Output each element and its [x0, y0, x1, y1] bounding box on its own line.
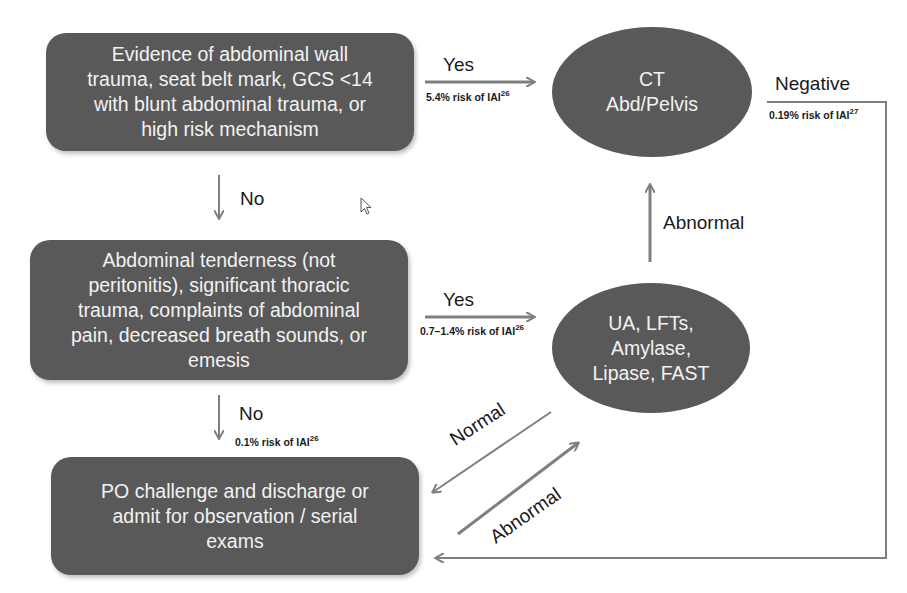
node-text-line: UA, LFTs,: [592, 311, 709, 336]
node-text-line: trauma, complaints of abdominal: [71, 298, 367, 323]
node-text-line: pain, decreased breath sounds, or: [71, 323, 367, 348]
edge-risk-yes-1: 5.4% risk of IAI26: [426, 89, 510, 103]
edge-risk-negative: 0.19% risk of IAI27: [769, 107, 858, 121]
node-text-line: Abd/Pelvis: [606, 92, 698, 117]
node-ct-abd-pelvis: CT Abd/Pelvis: [552, 27, 752, 157]
node-text-line: Amylase,: [592, 336, 709, 361]
node-text-line: with blunt abdominal trauma, or: [87, 92, 373, 117]
edge-label-no-1: No: [240, 188, 264, 210]
node-text-line: Abdominal tenderness (not: [71, 248, 367, 273]
node-abdominal-tenderness: Abdominal tenderness (not peritonitis), …: [30, 240, 408, 380]
edge-label-abnormal-up: Abnormal: [663, 212, 744, 234]
node-text-line: peritonitis), significant thoracic: [71, 273, 367, 298]
edge-label-no-2: No: [239, 403, 263, 425]
edge-label-negative: Negative: [775, 73, 850, 95]
node-text-line: CT: [606, 67, 698, 92]
edge-risk-yes-2: 0.7–1.4% risk of IAI26: [420, 323, 524, 337]
node-po-challenge: PO challenge and discharge or admit for …: [51, 457, 419, 575]
node-text-line: admit for observation / serial: [101, 504, 369, 529]
node-text-line: emesis: [71, 348, 367, 373]
node-labs-fast: UA, LFTs, Amylase, Lipase, FAST: [552, 283, 750, 413]
edge-label-yes-2: Yes: [443, 289, 474, 311]
mouse-pointer-icon: [360, 197, 374, 217]
edge-label-yes-1: Yes: [443, 54, 474, 76]
node-text-line: PO challenge and discharge or: [101, 479, 369, 504]
node-text-line: Evidence of abdominal wall: [87, 42, 373, 67]
node-text-line: exams: [101, 529, 369, 554]
node-text-line: high risk mechanism: [87, 117, 373, 142]
node-text-line: trauma, seat belt mark, GCS <14: [87, 67, 373, 92]
edge-risk-no-2: 0.1% risk of IAI26: [235, 434, 319, 448]
node-evidence-of-wall-trauma: Evidence of abdominal wall trauma, seat …: [46, 33, 414, 151]
node-text-line: Lipase, FAST: [592, 361, 709, 386]
